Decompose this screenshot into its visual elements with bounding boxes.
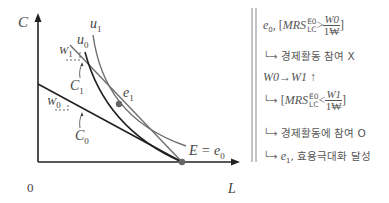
origin-label: 0 bbox=[27, 181, 34, 194]
c1-label-text: C bbox=[70, 78, 79, 93]
c1-label-sub: 1 bbox=[79, 86, 84, 96]
note1-comma: , [ bbox=[273, 18, 283, 32]
c1-label: C1 bbox=[70, 79, 84, 96]
endowment-label-sub: 0 bbox=[220, 151, 225, 161]
note4-close: ] bbox=[342, 93, 346, 107]
indifference-curve-u1 bbox=[93, 35, 186, 146]
c0-label-sub: 0 bbox=[84, 136, 89, 146]
note-line-6: └→ e1, 효용극대화 달성 bbox=[263, 148, 371, 165]
w1-label-sub: 1 bbox=[68, 49, 73, 59]
indifference-curve-u0 bbox=[85, 52, 182, 162]
note4-mrs: MRS bbox=[285, 93, 308, 107]
note5-text: 경제활동에 참여 O bbox=[281, 127, 366, 139]
endowment-label-text: E = e bbox=[189, 143, 220, 158]
c0-pointer-head-icon bbox=[81, 112, 84, 116]
note4-fraction: W11₩ bbox=[325, 89, 342, 112]
w1-label-text: W bbox=[59, 44, 68, 56]
y-axis-arrow-icon bbox=[35, 13, 42, 22]
w1-label: W1 bbox=[59, 45, 73, 59]
note5-arrow-icon: └→ bbox=[263, 128, 277, 139]
e1-label-sub: 1 bbox=[129, 93, 134, 103]
x-axis-arrow-icon bbox=[231, 159, 240, 166]
note4-op: < bbox=[319, 93, 326, 107]
u1-label-sub: 1 bbox=[97, 24, 102, 34]
w0-label: W0 bbox=[47, 96, 61, 110]
point-endowment-e bbox=[179, 159, 185, 165]
endowment-label: E = e0 bbox=[189, 144, 225, 161]
note4-arrow-icon: └→ bbox=[263, 95, 277, 106]
c1-pointer-icon bbox=[80, 64, 82, 78]
note4-mrs-indices: E0LC bbox=[309, 93, 319, 109]
note3-text: W0→W1 ↑ bbox=[263, 70, 316, 84]
note2-arrow-icon: └→ bbox=[263, 51, 277, 62]
note1-frac-den: 1₩ bbox=[323, 26, 340, 37]
c0-label: C0 bbox=[75, 129, 89, 146]
note1-mrs-indices: E0LC bbox=[307, 18, 317, 34]
note-line-2: └→ 경제활동 참여 X bbox=[263, 48, 355, 63]
note2-text: 경제활동 참여 X bbox=[281, 50, 355, 62]
e1-label: e1 bbox=[123, 86, 134, 103]
u0-label: u0 bbox=[77, 33, 89, 50]
note1-mrs: MRS bbox=[283, 18, 306, 32]
note6-text: , 효용극대화 달성 bbox=[291, 150, 371, 162]
note1-op: > bbox=[317, 18, 324, 32]
point-e1 bbox=[116, 101, 122, 107]
c0-label-text: C bbox=[75, 128, 84, 143]
note6-arrow-icon: └→ bbox=[263, 151, 277, 162]
note-line-1: e0, [MRSE0LC>W01₩] bbox=[263, 14, 344, 37]
w0-label-text: W bbox=[47, 95, 56, 107]
note4-frac-den: 1₩ bbox=[325, 101, 342, 112]
x-axis-label: L bbox=[228, 182, 236, 196]
note-line-3: W0→W1 ↑ bbox=[263, 70, 316, 85]
note1-mrs-sub: LC bbox=[307, 26, 317, 34]
note1-fraction: W01₩ bbox=[323, 14, 340, 37]
c0-pointer-icon bbox=[80, 114, 82, 128]
note4-mrs-sub: LC bbox=[309, 101, 319, 109]
u0-label-sub: 0 bbox=[84, 40, 89, 50]
note-line-5: └→ 경제활동에 참여 O bbox=[263, 125, 366, 140]
u0-label-text: u bbox=[77, 32, 84, 47]
note1-close: ] bbox=[340, 18, 344, 32]
c1-pointer-head-icon bbox=[81, 62, 84, 66]
u1-label-text: u bbox=[90, 16, 97, 31]
note-line-4: └→ [MRSE0LC<W11₩] bbox=[263, 89, 346, 112]
u1-label: u1 bbox=[90, 17, 102, 34]
w0-label-sub: 0 bbox=[56, 100, 61, 110]
y-axis-label: C bbox=[18, 15, 28, 30]
